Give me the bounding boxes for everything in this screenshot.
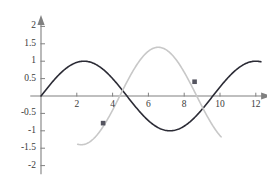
- y-axis-label-0.5: 0.5: [24, 74, 36, 84]
- y-axis-label-1: 1: [31, 56, 36, 66]
- x-axis-label-4: 4: [110, 100, 115, 110]
- y-axis-arrow: [37, 15, 44, 25]
- x-axis-label-12: 12: [251, 100, 261, 110]
- x-axis-arrow: [261, 92, 267, 99]
- marked-point-b: [192, 79, 197, 84]
- y-axis-label-1.5: 1.5: [24, 39, 36, 49]
- x-axis-label-8: 8: [182, 100, 187, 110]
- y-axis-label-neg0.5: -0.5: [21, 109, 36, 119]
- x-axis-label-10: 10: [215, 100, 225, 110]
- y-axis-label-neg1: -1: [28, 126, 36, 136]
- x-axis-label-2: 2: [74, 100, 79, 110]
- x-axis-label-6: 6: [146, 100, 151, 110]
- y-axis-label-neg2: -2: [28, 161, 36, 171]
- chart-figure: 2468101221.510.5-0.5-1-1.5-2: [0, 0, 267, 182]
- y-axis-label-2: 2: [31, 22, 36, 32]
- marked-point-a: [101, 121, 106, 126]
- y-axis-label-neg1.5: -1.5: [21, 143, 36, 153]
- plot-canvas: [0, 0, 267, 182]
